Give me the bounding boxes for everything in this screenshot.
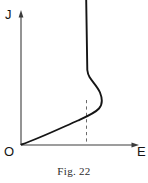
y-axis-arrowhead-icon <box>19 10 24 18</box>
x-axis <box>21 143 139 148</box>
x-axis-label: E <box>137 145 146 158</box>
plot-canvas <box>0 0 148 183</box>
y-axis <box>19 10 24 145</box>
origin-label: O <box>4 145 14 158</box>
figure-caption: Fig. 22 <box>0 165 148 177</box>
y-axis-label: J <box>5 8 12 21</box>
j-e-characteristic-curve <box>22 0 102 145</box>
figure-container: J O E Fig. 22 <box>0 0 148 183</box>
